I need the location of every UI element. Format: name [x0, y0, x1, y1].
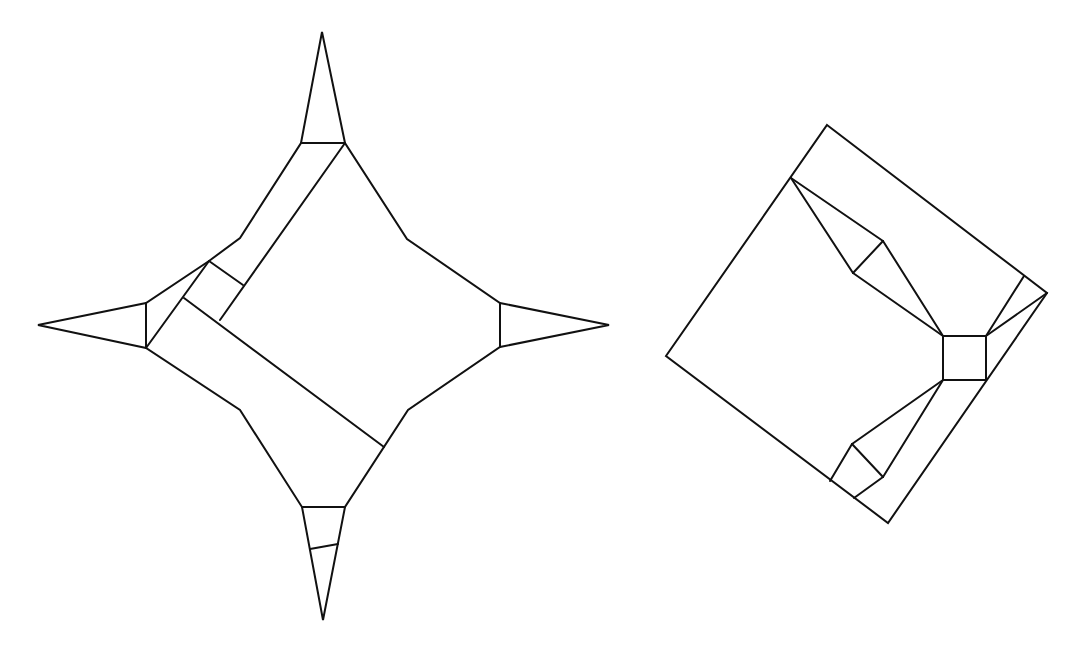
crease-line	[791, 178, 883, 241]
crease-line	[209, 261, 243, 285]
crease-line	[220, 143, 345, 320]
four-point-star-figure	[38, 32, 609, 620]
fold-diagram-canvas	[0, 0, 1079, 645]
crease-line	[986, 276, 1024, 336]
crease-line	[791, 178, 853, 273]
crease-line	[853, 273, 943, 336]
crease-line	[853, 241, 883, 273]
crease-line	[854, 477, 883, 498]
crease-line	[883, 241, 943, 336]
four-point-star-fold-outline	[38, 32, 609, 620]
rotated-square-figure	[666, 125, 1047, 523]
crease-line	[184, 298, 384, 447]
crease-line	[986, 293, 1047, 336]
crease-line	[883, 380, 943, 477]
rotated-square-fold-outline	[666, 125, 1047, 523]
crease-line	[146, 261, 209, 348]
crease-line	[852, 444, 883, 477]
crease-line	[830, 444, 852, 481]
crease-line	[310, 544, 338, 549]
crease-line	[852, 380, 943, 444]
